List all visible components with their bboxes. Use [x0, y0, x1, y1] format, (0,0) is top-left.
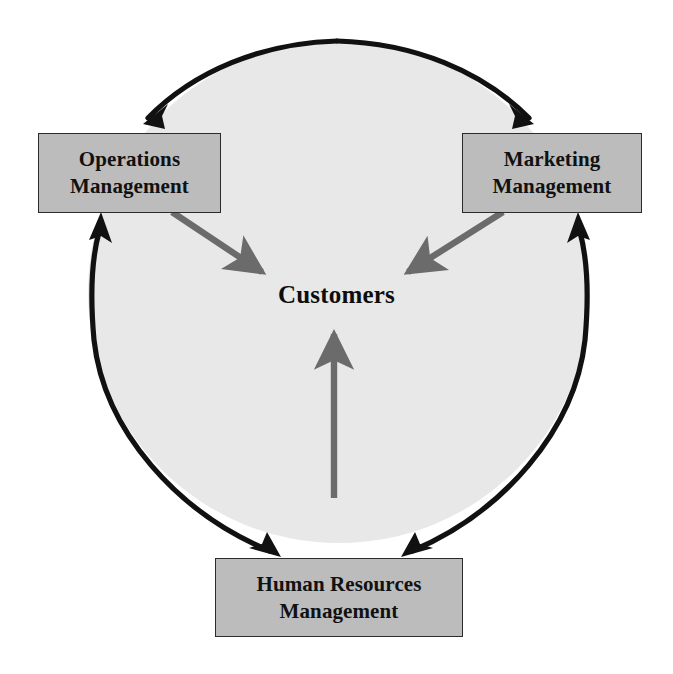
node-hr-line2: Management	[280, 598, 399, 625]
diagram-canvas: Operations Management Marketing Manageme…	[0, 0, 673, 674]
node-human-resources-management[interactable]: Human Resources Management	[215, 558, 463, 637]
node-operations-line2: Management	[70, 173, 189, 200]
center-label-customers: Customers	[0, 281, 673, 309]
node-hr-line1: Human Resources	[256, 571, 421, 598]
node-operations-line1: Operations	[79, 146, 180, 173]
node-marketing-management[interactable]: Marketing Management	[462, 133, 642, 213]
center-label-text: Customers	[278, 281, 395, 309]
node-marketing-line1: Marketing	[504, 146, 601, 173]
node-marketing-line2: Management	[493, 173, 612, 200]
node-operations-management[interactable]: Operations Management	[38, 133, 221, 213]
